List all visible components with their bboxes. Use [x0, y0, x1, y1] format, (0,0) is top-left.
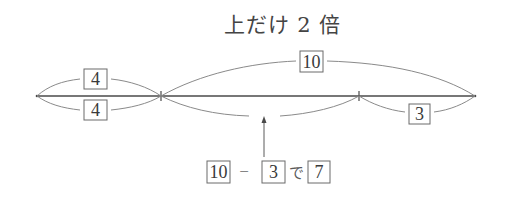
label-box-bottom-left: 4: [84, 100, 107, 120]
arc-top-left-2: [111, 79, 161, 96]
tape-diagram: 4 4 10 3 10 − 3 で 7: [0, 0, 505, 203]
arc-bottom-left-2: [111, 96, 161, 110]
equation-operand-2: 3: [269, 162, 278, 182]
arc-bottom-middle-2: [280, 96, 359, 116]
arc-bottom-left: [37, 96, 80, 110]
label-box-top-long: 10: [300, 51, 323, 72]
arc-bottom-right: [359, 96, 405, 112]
arc-bottom-right-2: [434, 96, 475, 112]
arc-bottom-middle: [161, 96, 249, 116]
equation-operand-1: 10: [210, 162, 228, 182]
arc-top-long-2: [327, 61, 475, 96]
arc-top-long: [161, 61, 296, 96]
equation-particle: で: [289, 165, 304, 181]
equation-result: 7: [315, 162, 324, 182]
label-top-left: 4: [91, 69, 100, 89]
label-bottom-left: 4: [91, 100, 100, 120]
equation-operator: −: [239, 162, 249, 181]
arc-top-left: [37, 79, 80, 96]
label-top-long: 10: [303, 52, 321, 72]
arrow-up-icon: [262, 116, 267, 123]
label-box-bottom-right: 3: [409, 104, 430, 124]
label-bottom-right: 3: [415, 104, 424, 124]
label-box-top-left: 4: [84, 69, 107, 89]
equation: 10 − 3 で 7: [207, 161, 330, 183]
